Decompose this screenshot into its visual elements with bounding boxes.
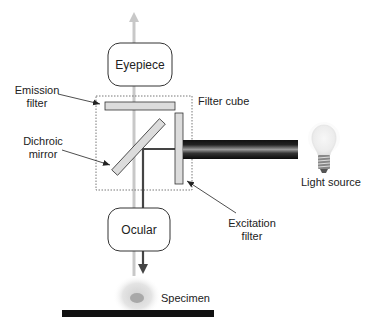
emission-filter	[105, 102, 175, 110]
dichroic-mirror-label-line2: mirror	[18, 148, 68, 161]
light-source-label: Light source	[301, 176, 361, 189]
slide	[62, 310, 214, 317]
ocular-label: Ocular	[108, 208, 170, 251]
eyepiece-label: Eyepiece	[108, 43, 172, 86]
dichroic-mirror-label-line1: Dichroic	[18, 135, 68, 148]
emission-filter-label-line2: filter	[10, 97, 64, 110]
excitation-filter-pointer	[187, 181, 236, 213]
excitation-filter	[175, 113, 183, 184]
filter-cube-label: Filter cube	[198, 95, 249, 108]
light-tube	[183, 140, 298, 159]
emission-filter-label-line1: Emission	[10, 84, 64, 97]
excitation-filter-label-line2: filter	[222, 230, 282, 243]
specimen-label: Specimen	[161, 292, 210, 305]
excitation-filter-label-line1: Excitation	[222, 217, 282, 230]
emission-filter-label: Emission filter	[10, 84, 64, 110]
down-arrow-icon	[138, 264, 148, 274]
excitation-filter-label: Excitation filter	[222, 217, 282, 243]
dichroic-mirror	[112, 119, 166, 176]
microscope-diagram: Eyepiece Ocular Filter cube Emission fil…	[0, 0, 374, 331]
dichroic-mirror-pointer	[62, 150, 110, 165]
light-bulb-icon	[308, 122, 340, 173]
emission-filter-pointer	[58, 94, 100, 104]
dichroic-mirror-label: Dichroic mirror	[18, 135, 68, 161]
up-arrow-icon	[129, 12, 139, 22]
